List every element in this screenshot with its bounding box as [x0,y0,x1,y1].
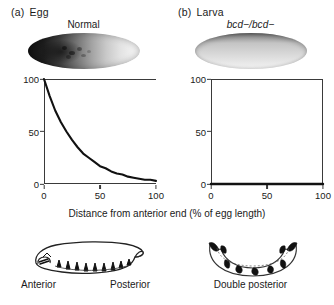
mutant-egg-micrograph [195,33,307,69]
panel-a-specimen-label: Normal [0,19,167,30]
larva-icon [197,236,309,281]
panel-a-tag: (a) [11,6,24,18]
x-tick-0: 0 [41,190,46,201]
panel-b-specimen-label: bcd−/bcd− [167,19,334,30]
double-posterior-larva-drawing [197,236,309,281]
x-tick-0: 0 [208,190,213,201]
panel-b-larva: (b)Larva bcd−/bcd− 100 50 0 0 50 100 [167,0,334,305]
x-tick-50: 50 [262,190,273,201]
egg-nuclei-speck [87,50,91,53]
egg-nuclei-speck [62,46,67,50]
y-tick-100: 100 [190,74,211,85]
x-tick-100: 100 [148,190,164,201]
egg-icon [28,33,140,69]
panel-a-egg: (a)Egg Normal Relative concentration of … [0,0,167,305]
larva-caption-double-posterior: Double posterior [167,279,334,290]
panel-b-label: (b)Larva [178,6,224,18]
normal-larva-drawing [22,236,150,281]
y-tick-50: 50 [28,126,44,137]
x-tick-100: 100 [315,190,331,201]
larva-icon [22,236,150,281]
larva-caption-posterior: Posterior [110,279,150,290]
egg-nuclei-speck [81,54,86,57]
panel-a-title: Egg [29,6,48,18]
egg-icon [195,33,307,69]
normal-egg-micrograph [28,33,140,69]
panel-b-title: Larva [196,6,223,18]
plot-normal-gradient: 100 50 0 0 50 100 [44,79,156,184]
figure-bicoid-gradient: (a)Egg Normal Relative concentration of … [0,0,334,305]
y-tick-100: 100 [23,74,44,85]
x-tick-50: 50 [95,190,106,201]
y-tick-50: 50 [195,126,211,137]
egg-nuclei-speck [66,55,71,59]
panel-a-label: (a)Egg [11,6,49,18]
egg-nuclei-speck [77,47,82,51]
egg-nuclei-speck [69,51,75,55]
plot-mutant-gradient: 100 50 0 0 50 100 [211,79,323,184]
larva-caption-anterior: Anterior [21,279,56,290]
panel-b-tag: (b) [178,6,191,18]
x-axis-label: Distance from anterior end (% of egg len… [0,208,334,219]
bicoid-flat-line [211,79,323,184]
bicoid-decay-curve [44,79,156,184]
